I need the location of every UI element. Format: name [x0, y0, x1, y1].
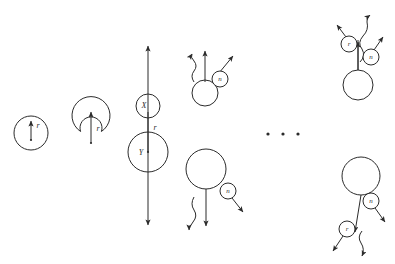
emission-wavy-arrow: [191, 54, 196, 82]
badge-arrow: [219, 56, 233, 73]
radius-label: r: [96, 124, 100, 133]
badge-arrow: [232, 198, 243, 212]
badge-label-n: n: [218, 75, 222, 83]
badge-label-n: n: [226, 187, 230, 195]
badge-label-r: r: [348, 40, 351, 48]
panel-single-node-with-radius: r: [14, 116, 48, 150]
panel-branching-node-lower: r n: [333, 157, 385, 256]
radius-label: r: [153, 123, 157, 132]
panel-two-node-stack-with-radius: r: [72, 97, 110, 145]
ellipsis-dot: [266, 132, 269, 135]
node-circle: [186, 149, 226, 189]
emission-straight-arrow: [355, 195, 361, 232]
ellipsis-dot: [296, 132, 299, 135]
emission-wavy-arrow: [189, 197, 196, 230]
node-circle: [343, 70, 373, 100]
badge-arrow-n: [375, 208, 385, 222]
ellipsis-dot: [281, 132, 284, 135]
node-label-y: Y: [139, 148, 145, 157]
panel-emission-node-lower: n: [186, 149, 243, 230]
diagram-root: r r X Y r n: [0, 0, 395, 264]
node-label-x: X: [141, 101, 148, 110]
badge-arrow-r: [333, 236, 343, 251]
emission-wavy-arrow: [359, 231, 363, 256]
panel-emission-node-upper: n: [191, 51, 233, 106]
panel-xy-node-pair-double-arrow: X Y r: [128, 46, 168, 225]
centre-dot: [147, 151, 149, 153]
badge-label-r: r: [346, 225, 349, 233]
panel-branching-node-upper: r n: [337, 15, 383, 100]
radius-label: r: [36, 121, 40, 130]
node-circle: [342, 157, 380, 195]
continuation-ellipsis: [266, 132, 299, 135]
badge-arrow-r: [337, 25, 346, 37]
badge-label-n: n: [369, 53, 373, 61]
badge-label-n: n: [369, 197, 373, 205]
diagram-canvas: r r X Y r n: [0, 0, 395, 264]
badge-arrow-n: [374, 37, 383, 50]
